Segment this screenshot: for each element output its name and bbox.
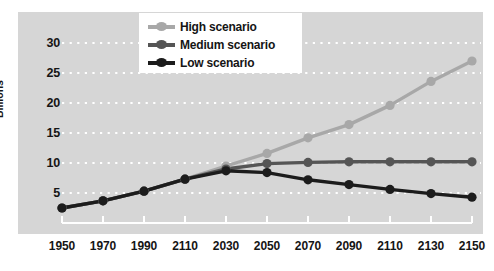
data-point [385, 101, 394, 110]
data-point [180, 175, 189, 184]
x-axis-tick [61, 216, 63, 223]
legend-item-low-scenario[interactable]: Low scenario [148, 54, 254, 71]
x-axis-tick-label: 2130 [418, 239, 444, 253]
legend-item-medium-scenario[interactable]: Medium scenario [148, 36, 275, 53]
x-axis-tick-label: 2030 [213, 239, 239, 253]
y-axis-tick-label: 30 [34, 36, 60, 50]
legend-label-low-scenario: Low scenario [180, 56, 254, 70]
data-point [262, 168, 271, 177]
legend-marker-low-scenario [148, 57, 175, 68]
legend-label-high-scenario: High scenario [180, 20, 257, 34]
data-point [98, 196, 107, 205]
y-axis-tick-label: 15 [34, 126, 60, 140]
y-axis-tick-label: 5 [34, 186, 60, 200]
x-axis-tick-label: 2110 [377, 239, 403, 253]
y-axis-tick-label: 20 [34, 96, 60, 110]
data-point [344, 157, 353, 166]
legend-label-medium-scenario: Medium scenario [180, 38, 275, 52]
x-axis-tick-label: 1970 [90, 239, 116, 253]
legend: High scenario Medium scenario Low scenar… [139, 13, 302, 73]
y-axis-tick-labels: 51015202530 [34, 0, 60, 271]
data-point [344, 120, 353, 129]
data-point [426, 157, 435, 166]
x-axis-tick-label: 2090 [336, 239, 362, 253]
data-point [426, 189, 435, 198]
x-axis-tick [225, 216, 227, 223]
data-point [303, 158, 312, 167]
x-axis-tick-label: 2070 [295, 239, 321, 253]
data-point [426, 77, 435, 86]
x-axis-tick [430, 216, 432, 223]
data-point [221, 166, 230, 175]
x-axis-tick-label: 1950 [49, 239, 75, 253]
x-axis-tick-label: 2110 [172, 239, 198, 253]
series-line-high-scenario [62, 61, 472, 208]
data-point [467, 56, 476, 65]
x-axis-tick [471, 216, 473, 223]
data-point [467, 157, 476, 166]
x-axis-tick [307, 216, 309, 223]
y-axis-tick-label: 10 [34, 156, 60, 170]
legend-marker-medium-scenario [148, 39, 175, 50]
y-axis-tick-label: 25 [34, 66, 60, 80]
data-point [303, 175, 312, 184]
x-axis-tick [389, 216, 391, 223]
data-point [344, 180, 353, 189]
data-point [467, 193, 476, 202]
x-axis-tick-label: 1990 [131, 239, 157, 253]
x-axis-tick [143, 216, 145, 223]
data-point [262, 159, 271, 168]
data-point [303, 133, 312, 142]
data-point [262, 149, 271, 158]
x-axis-tick [184, 216, 186, 223]
y-axis-title: Billions [0, 80, 5, 118]
data-point [385, 157, 394, 166]
legend-marker-high-scenario [148, 21, 175, 32]
x-axis-tick [348, 216, 350, 223]
x-axis-tick-label: 2050 [254, 239, 280, 253]
population-projection-chart: 51015202530 Billions 1950197019902110203… [0, 0, 494, 271]
x-axis-tick [102, 216, 104, 223]
x-axis-tick [266, 216, 268, 223]
data-point [385, 185, 394, 194]
legend-item-high-scenario[interactable]: High scenario [148, 18, 257, 35]
x-axis-tick-label: 2150 [459, 239, 485, 253]
data-point [139, 187, 148, 196]
